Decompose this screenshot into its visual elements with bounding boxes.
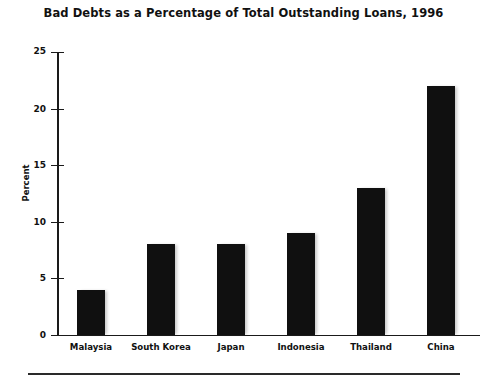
bar-group-indonesia: Indonesia: [287, 52, 315, 335]
bar-group-thailand: Thailand: [357, 52, 385, 335]
x-tick-label-japan: Japan: [217, 342, 244, 352]
y-tick-label-0: 0: [2, 331, 46, 340]
y-tick-label-25: 25: [2, 47, 46, 56]
x-tick-label-thailand: Thailand: [350, 342, 392, 352]
bar-malaysia: [77, 290, 105, 335]
bar-south-korea: [147, 244, 175, 335]
bar-japan: [217, 244, 245, 335]
bar-chart-figure: Bad Debts as a Percentage of Total Outst…: [0, 0, 487, 386]
x-tick-label-malaysia: Malaysia: [70, 342, 112, 352]
bar-china: [427, 86, 455, 335]
y-axis-title: Percent: [21, 163, 31, 203]
x-tick-label-south-korea: South Korea: [131, 342, 191, 352]
y-tick-label-20: 20: [2, 105, 46, 114]
bar-group-japan: Japan: [217, 52, 245, 335]
bars-layer: Malaysia South Korea Japan Indonesia Tha…: [58, 52, 480, 335]
y-tick-mark-0: [51, 335, 64, 336]
bar-group-malaysia: Malaysia: [77, 52, 105, 335]
footer-divider: [28, 373, 460, 375]
x-tick-label-china: China: [427, 342, 454, 352]
y-tick-label-5: 5: [2, 274, 46, 283]
y-tick-label-10: 10: [2, 218, 46, 227]
bar-indonesia: [287, 233, 315, 335]
bar-group-china: China: [427, 52, 455, 335]
bar-thailand: [357, 188, 385, 335]
bar-group-south-korea: South Korea: [147, 52, 175, 335]
x-tick-label-indonesia: Indonesia: [277, 342, 324, 352]
